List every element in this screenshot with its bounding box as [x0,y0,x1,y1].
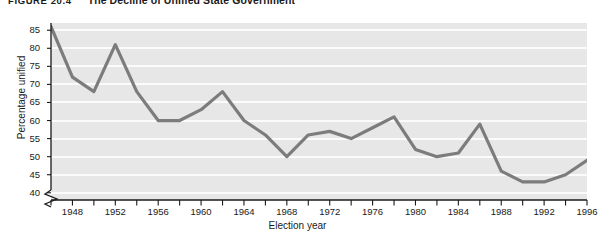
plot-area [51,23,587,200]
x-tick-label: 1980 [395,206,435,217]
y-axis-title: Percentage unified [16,33,27,163]
y-tick-label: 45 [14,170,40,180]
figure-caption: The Decline of Unified State Government [88,0,296,6]
x-axis-title: Election year [0,220,595,231]
x-tick-label: 1968 [267,206,307,217]
x-tick-label: 1976 [353,206,393,217]
x-tick-label: 1964 [224,206,264,217]
x-tick-label: 1948 [52,206,92,217]
x-tick-label: 1952 [95,206,135,217]
x-tick-label: 1960 [181,206,221,217]
x-tick-label: 1984 [438,206,478,217]
series-percentage-unified [51,27,587,182]
x-tick-label: 1996 [567,206,602,217]
y-tick-label: 40 [14,188,40,198]
x-tick-label: 1956 [138,206,178,217]
x-tick-label: 1992 [524,206,564,217]
figure-title: FIGURE 20.4The Decline of Unified State … [8,0,295,8]
x-tick-label: 1972 [310,206,350,217]
x-tick-label: 1988 [481,206,521,217]
data-series-line [51,23,587,200]
